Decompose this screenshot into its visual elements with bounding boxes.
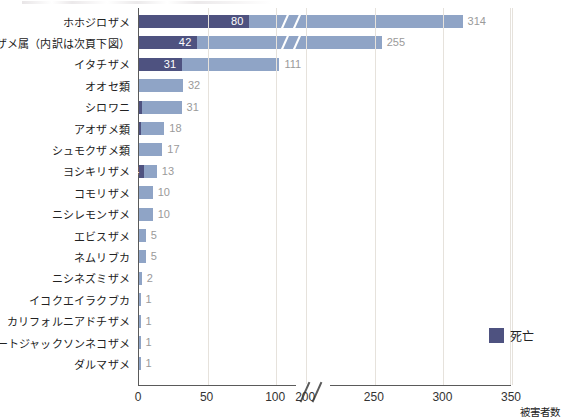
category-label: ニシネズミザメ	[52, 268, 130, 289]
bar-value-total: 5	[151, 230, 157, 241]
bar-value-deaths: 42	[179, 37, 197, 48]
legend: 死亡	[489, 327, 534, 344]
bar-value-total: 31	[187, 102, 199, 113]
bar	[139, 315, 141, 328]
bar-segment-victims	[139, 272, 142, 285]
bar-segment-deaths: 31	[139, 58, 182, 71]
category-label: カリフォルニアドチザメ	[7, 311, 130, 332]
gridline-250	[375, 8, 376, 385]
bar-value-total: 1	[146, 316, 152, 327]
bar-segment-victims	[139, 229, 146, 242]
bar-value-deaths: 2	[130, 102, 141, 113]
bar-value-total: 18	[169, 123, 181, 134]
bar-value-total: 255	[387, 37, 405, 48]
bar-row: 1	[139, 311, 511, 332]
bar-row: 413	[139, 161, 511, 182]
category-label: ネムリブカ	[74, 246, 130, 267]
plot-area: 803144225531111322311181741310105521111	[138, 8, 511, 386]
bar-segment-victims	[139, 79, 183, 92]
bar	[139, 143, 162, 156]
bar: 80	[139, 15, 463, 28]
bar	[139, 250, 146, 263]
bar-segment-victims	[139, 336, 141, 349]
x-axis-tick-350: 350	[501, 390, 521, 404]
bar-value-total: 10	[158, 187, 170, 198]
bar	[139, 79, 183, 92]
bar-segment-victims	[139, 293, 141, 306]
bar-value-total: 13	[162, 166, 174, 177]
category-label: ダルマザメ	[74, 353, 130, 374]
bar: 42	[139, 36, 382, 49]
bar-row: 5	[139, 246, 511, 267]
bar-row: 1	[139, 353, 511, 374]
bar-row: 1	[139, 289, 511, 310]
category-label: ホホジロザメ	[63, 11, 130, 32]
bar-row: 2	[139, 268, 511, 289]
bar-segment-victims	[139, 357, 141, 370]
scan-artifact	[22, 1, 272, 4]
bar	[139, 336, 141, 349]
bar-segment-victims	[139, 250, 146, 263]
bar-row: 231	[139, 97, 511, 118]
bar-value-total: 2	[147, 273, 153, 284]
bar-segment-victims	[139, 208, 153, 221]
bar-value-total: 32	[188, 80, 200, 91]
bar-value-total: 1	[146, 294, 152, 305]
category-label: ポートジャックソンネコザメ	[0, 332, 130, 353]
bar-value-total: 111	[284, 59, 301, 70]
x-axis-tick-300: 300	[432, 390, 452, 404]
bar	[139, 229, 146, 242]
bar-value-deaths: 31	[164, 59, 182, 70]
category-label: エビスザメ	[74, 225, 130, 246]
bar-row: 10	[139, 182, 511, 203]
bar-segment-victims	[182, 58, 280, 71]
bar-segment-victims	[249, 15, 463, 28]
bar-value-deaths: 4	[133, 166, 144, 177]
bar-segment-victims	[139, 186, 153, 199]
category-label: シュモクザメ類	[52, 139, 130, 160]
bar	[139, 357, 141, 370]
category-label: イコクエイラクブカ	[29, 289, 130, 310]
shark-attack-bar-chart: ホホジロザメメジロザメ属（内訳は次頁下図）イタチザメオオセ類シロワニアオザメ類シ…	[0, 0, 566, 417]
bar-segment-victims	[139, 315, 141, 328]
bar-row: 17	[139, 139, 511, 160]
bar: 2	[139, 101, 182, 114]
category-label-column: ホホジロザメメジロザメ属（内訳は次頁下図）イタチザメオオセ類シロワニアオザメ類シ…	[0, 8, 134, 386]
gridline-100	[276, 8, 277, 385]
bar-row: 31111	[139, 54, 511, 75]
bar-segment-deaths: 42	[139, 36, 197, 49]
bar-value-deaths: 1	[130, 123, 141, 134]
bar-value-deaths: 80	[231, 16, 249, 27]
bar-value-total: 314	[468, 16, 486, 27]
x-axis-tick-0: 0	[135, 390, 142, 404]
gridline-50	[208, 8, 209, 385]
x-axis-tick-250: 250	[364, 390, 384, 404]
bar-row: 42255	[139, 32, 511, 53]
category-label: イタチザメ	[74, 54, 130, 75]
bar-segment-victims	[141, 122, 164, 135]
bar	[139, 186, 153, 199]
bar-value-total: 1	[146, 358, 152, 369]
bar-segment-victims	[142, 101, 182, 114]
bar: 31	[139, 58, 279, 71]
legend-swatch-deaths	[489, 328, 504, 343]
bar	[139, 208, 153, 221]
x-axis-caption: 被害者数	[520, 404, 560, 417]
bar-value-total: 17	[167, 144, 179, 155]
bar-value-total: 5	[151, 251, 157, 262]
bar-row: 10	[139, 204, 511, 225]
bar: 4	[139, 165, 157, 178]
category-label: シロワニ	[85, 97, 130, 118]
x-axis-tick-200: 200	[295, 390, 315, 404]
category-label: コモリザメ	[74, 182, 130, 203]
bar-segment-deaths: 80	[139, 15, 249, 28]
bar-row: 80314	[139, 11, 511, 32]
bar-value-total: 10	[158, 209, 170, 220]
bar-row: 32	[139, 75, 511, 96]
x-axis-tick-100: 100	[265, 390, 285, 404]
bar-value-total: 1	[146, 337, 152, 348]
bar	[139, 272, 142, 285]
bar-rows: 803144225531111322311181741310105521111	[139, 8, 511, 385]
bar-segment-victims	[144, 165, 156, 178]
category-label: オオセ類	[85, 75, 130, 96]
